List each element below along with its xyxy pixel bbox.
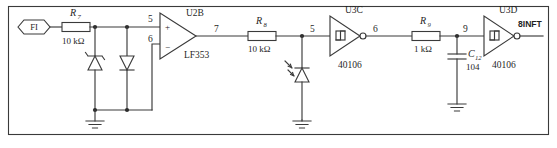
resistor-r7: R 7 10 kΩ: [62, 7, 90, 46]
node-5-label: 5: [148, 14, 153, 24]
opamp-u2b-minus-symbol: −: [165, 42, 170, 52]
junction-bottom-d2: [125, 108, 129, 112]
resistor-r7-sub: 7: [78, 13, 82, 20]
resistor-r9-ref: R: [419, 15, 426, 26]
node-9-label: 9: [463, 24, 468, 34]
capacitor-c12-ref: C: [468, 48, 475, 59]
capacitor-c12-sub: 12: [475, 54, 482, 61]
inverter-u3c: U3C 40106: [330, 5, 366, 70]
photodiode-d3: [285, 36, 309, 120]
ground-middle: [293, 120, 311, 128]
resistor-r8-value: 10 kΩ: [248, 44, 271, 54]
resistor-r8-sub: 8: [264, 21, 268, 28]
wire-feedback-to-pin6: [152, 44, 160, 110]
photodiode-d3-triangle: [295, 68, 309, 82]
inverter-u3d: U3D 40106: [484, 5, 520, 70]
resistor-r9-value: 1 kΩ: [414, 44, 432, 54]
node-6b-label: 6: [373, 24, 378, 34]
inverter-u3d-hysteresis-glyph: [490, 31, 499, 40]
resistor-r8-body: [248, 32, 276, 41]
resistor-r8-ref: R: [255, 15, 262, 26]
opamp-u2b-plus-symbol: +: [165, 22, 170, 32]
opamp-u2b: + − U2B LF353: [160, 8, 210, 60]
zener-d1-triangle: [88, 56, 102, 70]
diode-d2-triangle: [120, 56, 134, 70]
circuit-schematic: FI R 7 10 kΩ + − U2B: [0, 0, 557, 148]
capacitor-c12: C 12 104: [448, 36, 482, 104]
input-port-label: FI: [30, 22, 38, 32]
resistor-r7-ref: R: [69, 7, 76, 18]
ground-middle-bars: [293, 121, 311, 128]
resistor-r8: R 8 10 kΩ: [248, 15, 276, 54]
resistor-r9-body: [412, 32, 440, 41]
inverter-u3c-bubble: [360, 33, 366, 39]
resistor-r9: R 9 1 kΩ: [412, 15, 440, 54]
zener-diode-d1: [86, 27, 105, 110]
ground-right: [448, 104, 466, 111]
ground-left: [86, 110, 104, 128]
ground-right-bars: [448, 104, 466, 111]
inverter-u3d-part: 40106: [492, 60, 516, 70]
input-port: FI: [18, 20, 50, 34]
inverter-u3d-bubble: [514, 33, 520, 39]
ground-left-bars: [86, 121, 104, 128]
output-net-label: 8INFT: [518, 19, 543, 29]
resistor-r7-body: [62, 23, 90, 32]
capacitor-c12-value: 104: [466, 62, 480, 72]
opamp-u2b-part: LF353: [184, 50, 210, 60]
opamp-u2b-designator: U2B: [186, 8, 204, 18]
node-6-label: 6: [148, 34, 153, 44]
diode-d2: [120, 27, 134, 110]
inverter-u3d-designator: U3D: [499, 5, 518, 15]
inverter-u3c-hysteresis-glyph: [336, 31, 345, 40]
node-5b-label: 5: [310, 24, 315, 34]
resistor-r9-sub: 9: [428, 21, 432, 28]
inverter-u3c-part: 40106: [338, 60, 362, 70]
node-7-label: 7: [214, 24, 219, 34]
schematic-canvas: FI R 7 10 kΩ + − U2B: [0, 0, 557, 148]
photodiode-d3-light-arrows: [285, 61, 294, 76]
inverter-u3c-designator: U3C: [345, 5, 363, 15]
resistor-r7-value: 10 kΩ: [62, 36, 85, 46]
